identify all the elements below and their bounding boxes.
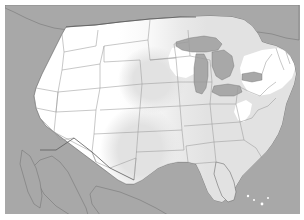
lake-ontario-shape (242, 72, 262, 82)
lake-michigan-shape (194, 54, 208, 94)
us-choropleth-map (0, 0, 304, 220)
map-figure (0, 0, 304, 220)
